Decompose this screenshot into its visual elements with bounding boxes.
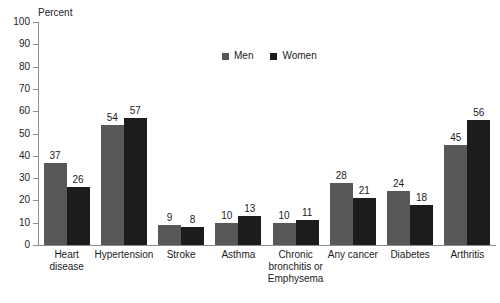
grouped-bar-chart: Percent 1009080706050403020100 Men Women… [0,0,500,303]
bar-value-label: 57 [118,106,153,116]
bar-women [296,220,319,245]
y-axis-tick-label: 0 [0,240,30,250]
bar-group: 2418 [387,22,433,245]
bar-group: 2821 [330,22,376,245]
bar-women [181,227,204,245]
category-label-line: Emphysema [259,273,332,285]
bar-value-label: 37 [38,151,73,161]
bar-men [101,125,124,245]
bar-group: 1013 [215,22,261,245]
bar-value-label: 8 [175,215,210,225]
bar-group: 1011 [273,22,319,245]
bar-women [238,216,261,245]
bar-women [467,120,490,245]
y-axis-tick-label: 90 [0,39,30,49]
bar-value-label: 28 [324,171,359,181]
plot-area: 372654579810131011282124184556 [38,22,496,245]
bar-men [273,223,296,245]
bar-value-label: 18 [404,193,439,203]
x-axis-category-label: Arthritis [431,249,500,261]
y-axis-tick-label: 100 [0,17,30,27]
bar-men [444,145,467,245]
y-axis-title: Percent [38,7,72,18]
y-axis-tick-label: 20 [0,195,30,205]
bar-women [353,198,376,245]
bar-group: 4556 [444,22,490,245]
y-axis-tick-label: 80 [0,62,30,72]
bar-value-label: 13 [232,204,267,214]
y-axis-tick-label: 60 [0,106,30,116]
category-label-line: Arthritis [431,249,500,261]
y-axis-tick [33,245,39,246]
y-axis-tick-label: 50 [0,129,30,139]
bar-value-label: 26 [61,175,96,185]
y-axis-tick-label: 40 [0,151,30,161]
category-label-line: bronchitis or [259,261,332,273]
x-axis-baseline [38,245,496,246]
bar-value-label: 56 [461,108,496,118]
bar-women [124,118,147,245]
bar-group: 3726 [44,22,90,245]
bar-value-label: 24 [381,179,416,189]
category-label-line: disease [30,261,103,273]
y-axis-tick-label: 70 [0,84,30,94]
y-axis-tick-label: 10 [0,218,30,228]
bar-value-label: 11 [290,208,325,218]
bar-value-label: 21 [347,186,382,196]
bar-women [67,187,90,245]
bar-group: 98 [158,22,204,245]
bar-women [410,205,433,245]
bar-men [158,225,181,245]
bar-group: 5457 [101,22,147,245]
bar-men [215,223,238,245]
y-axis-tick-label: 30 [0,173,30,183]
